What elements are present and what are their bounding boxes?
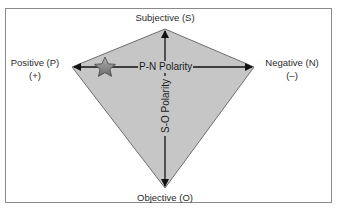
so-polarity-label: S-O Polarity: [160, 76, 172, 136]
vertex-label-objective: Objective (O): [125, 192, 205, 204]
vertex-label-positive: Positive (P): [5, 57, 65, 69]
polarity-kite: [0, 0, 344, 217]
vertex-sublabel-positive: (+): [5, 70, 65, 82]
pn-polarity-label: P-N Polarity: [138, 61, 193, 73]
vertex-label-subjective: Subjective (S): [125, 12, 205, 24]
vertex-label-negative: Negative (N): [258, 57, 326, 69]
vertex-sublabel-negative: (–): [258, 70, 326, 82]
